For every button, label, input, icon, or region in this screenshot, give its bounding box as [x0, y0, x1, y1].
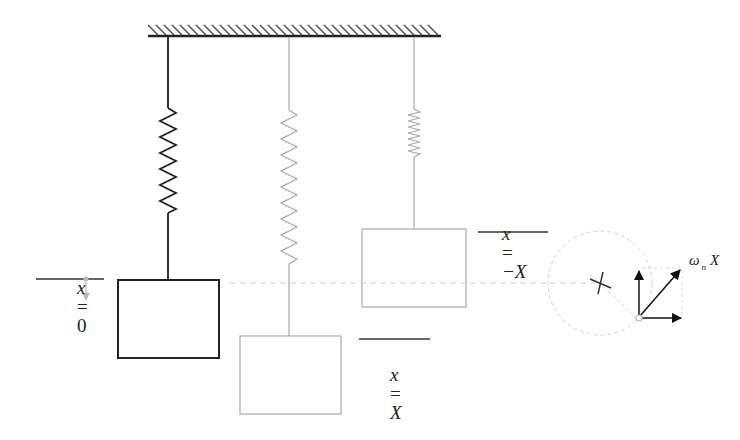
mass-compressed [362, 229, 466, 307]
omega-subscript: n [702, 262, 707, 272]
label-x-neg: x = −X [483, 205, 526, 300]
label-x-neg-eq: = [502, 242, 513, 263]
label-omega-n-x: ωnX [674, 238, 719, 287]
omega-symbol: ω [689, 252, 700, 268]
phasor-diagram [548, 231, 682, 335]
omega-var: X [710, 252, 719, 268]
ground-support [148, 25, 441, 36]
diagram-canvas [0, 0, 740, 440]
label-x-pos-eq: = [390, 383, 401, 404]
mass-equilibrium [118, 280, 219, 358]
spring-stretched [281, 37, 297, 336]
label-x-pos-var: x [390, 364, 398, 385]
label-x-pos-val: X [390, 402, 402, 423]
phasor-tip-dot [636, 315, 642, 321]
label-x-zero: x = 0 [58, 259, 88, 354]
label-x-neg-val: −X [502, 261, 526, 282]
spring-equilibrium [160, 37, 176, 280]
label-x-neg-var: x [502, 223, 510, 244]
spring-compressed [408, 37, 420, 229]
mass-stretched [240, 336, 341, 414]
label-x-pos: x = X [371, 346, 402, 440]
label-x-zero-eq: = [77, 296, 88, 317]
label-x-zero-val: 0 [77, 315, 87, 336]
label-x-zero-var: x [77, 277, 85, 298]
spring-mass-diagram: x = 0 x = X x = −X ωnX [0, 0, 740, 440]
